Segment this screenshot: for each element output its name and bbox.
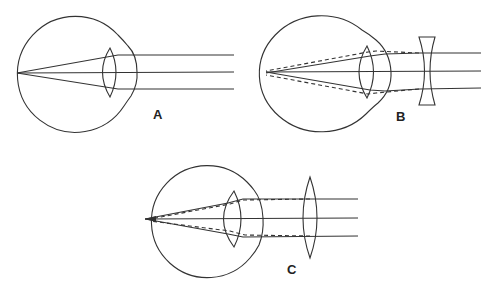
panel-b: B (259, 16, 481, 132)
panel-label-c: C (287, 262, 297, 277)
eyeball-a (17, 16, 137, 132)
eye-optics-diagram: A B C (0, 0, 497, 288)
panel-label-a: A (153, 107, 163, 122)
panel-a: A (17, 16, 234, 132)
light-rays-a (17, 55, 234, 89)
eyeball-c (151, 166, 263, 278)
panel-label-b: B (396, 109, 405, 124)
convex-corrective-lens (303, 177, 317, 258)
panel-c: C (145, 166, 358, 278)
light-rays-c (145, 199, 358, 237)
